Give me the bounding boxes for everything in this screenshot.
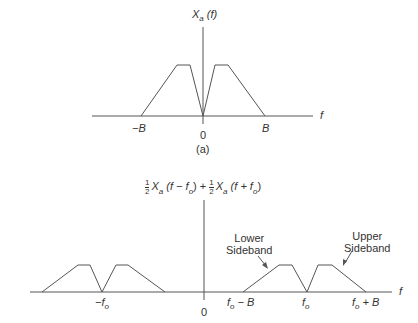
tick-fo-plus-B: fo + B [352, 296, 379, 311]
tick-neg-B: −B [132, 122, 146, 134]
lower-sideband-label: Lower Sideband [226, 232, 273, 256]
bottom-x-label: f [399, 285, 402, 297]
tick-fo-minus-B: fo − B [227, 296, 254, 311]
bottom-y-label: 12Xa (f − fo) + 12Xa (f + fo) [145, 179, 261, 196]
positive-shifted-spectrum [243, 265, 366, 292]
caption-a: (a) [196, 143, 209, 155]
lower-arrowhead-icon [262, 262, 268, 269]
tick-fo: fo [302, 296, 310, 311]
spectrum-diagram [0, 0, 418, 323]
upper-sideband-label: Upper Sideband [344, 230, 391, 254]
tick-neg-fo: −fo [95, 296, 109, 311]
tick-zero-b: 0 [201, 306, 207, 318]
top-y-label: Xa (f) [192, 8, 217, 23]
tick-B: B [262, 122, 269, 134]
negative-shifted-spectrum [42, 265, 165, 292]
tick-zero-a: 0 [200, 129, 206, 141]
top-x-label: f [320, 109, 323, 121]
